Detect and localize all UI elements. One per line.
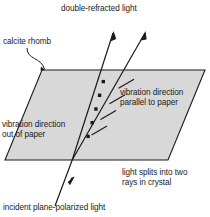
label-light-splits-into-two-rays: light splits into two rays in crystal: [122, 168, 187, 188]
calcite-rhomb-leader-icon: [27, 48, 45, 69]
ordinary-ray-arrow-icon: [110, 31, 116, 42]
label-double-refracted-light: double-refracted light: [61, 4, 137, 14]
figure-root: double-refracted light calcite rhomb vib…: [0, 0, 210, 217]
incident-ray-arrow-icon-b: [68, 177, 75, 186]
calcite-rhomb-shape: [5, 70, 205, 160]
label-vibration-direction-parallel-to-paper: vibration direction parallel to paper: [120, 88, 183, 108]
label-calcite-rhomb: calcite rhomb: [3, 37, 51, 47]
extraordinary-ray-arrow-icon: [140, 31, 146, 41]
label-vibration-direction-out-of-paper: vibration direction out of paper: [2, 120, 65, 140]
label-incident-plane-polarized-light: incident plane-polarized light: [3, 203, 105, 213]
